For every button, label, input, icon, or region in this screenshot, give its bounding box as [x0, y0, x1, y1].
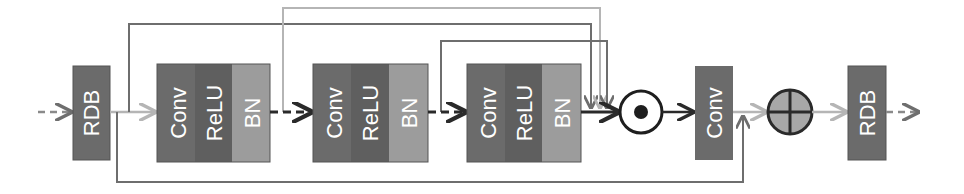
stage-3-conv-label: Conv: [476, 87, 501, 138]
fusion-conv-block: Conv: [695, 66, 733, 160]
network-diagram: RDB Conv ReLU BN Conv ReLU BN Con: [0, 0, 964, 194]
stage-1-conv-label: Conv: [166, 87, 191, 138]
stage-2-relu-label: ReLU: [358, 85, 383, 141]
stage-1-relu-label: ReLU: [202, 85, 227, 141]
stage-2-conv-label: Conv: [322, 87, 347, 138]
fusion-conv-label: Conv: [702, 87, 727, 138]
stage-3: Conv ReLU BN: [467, 64, 581, 162]
rdb-input-label: RDB: [79, 90, 104, 136]
stage-1-bn-label: BN: [240, 98, 265, 129]
stage-3-bn-label: BN: [550, 98, 575, 129]
stage-3-relu-label: ReLU: [512, 85, 537, 141]
rdb-input-block: RDB: [73, 66, 110, 160]
stage-2-bn-label: BN: [397, 98, 422, 129]
multiply-operator-icon: [620, 91, 662, 133]
stage-2: Conv ReLU BN: [313, 64, 428, 162]
rdb-output-block: RDB: [848, 66, 886, 160]
stage-1: Conv ReLU BN: [157, 64, 270, 162]
add-operator-icon: [768, 90, 812, 134]
rdb-output-label: RDB: [855, 90, 880, 136]
